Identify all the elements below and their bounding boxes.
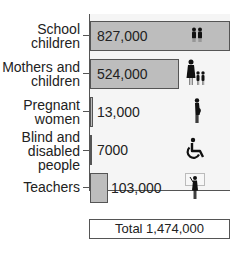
- category-label-school-children: School children: [31, 22, 80, 50]
- two-children-icon: [190, 27, 204, 43]
- label-line: children: [31, 36, 80, 50]
- bar-pregnant-women: [90, 97, 93, 127]
- tick-pregnant-women: [83, 111, 89, 112]
- label-line: disabled: [22, 144, 80, 158]
- label-line: Blind and: [22, 130, 80, 144]
- total-box: Total 1,474,000: [89, 219, 230, 239]
- tick-teachers: [83, 187, 89, 188]
- label-line: School: [31, 22, 80, 36]
- label-line: women: [23, 112, 80, 126]
- value-school-children: 827,000: [97, 29, 148, 43]
- value-mothers-and-children: 524,000: [97, 67, 148, 81]
- label-line: Pregnant: [23, 98, 80, 112]
- category-label-pregnant-women: Pregnant women: [23, 98, 80, 126]
- teacher-icon: [185, 173, 205, 201]
- category-label-mothers-and-children: Mothers and children: [2, 60, 80, 88]
- bar-blind-and-disabled-people: [90, 135, 92, 165]
- value-blind-and-disabled-people: 7000: [97, 143, 128, 157]
- label-line: Mothers and: [2, 60, 80, 74]
- pregnant-woman-icon: [192, 98, 202, 124]
- mother-and-children-icon: [186, 59, 206, 87]
- tick-blind-and-disabled-people: [83, 150, 89, 151]
- label-line: people: [22, 158, 80, 172]
- label-line: Teachers: [23, 180, 80, 194]
- value-teachers: 103,000: [111, 181, 162, 195]
- tick-mothers-and-children: [83, 73, 89, 74]
- wheelchair-icon: [184, 137, 208, 161]
- value-pregnant-women: 13,000: [97, 105, 140, 119]
- category-label-blind-and-disabled-people: Blind and disabled people: [22, 130, 80, 172]
- tick-school-children: [83, 35, 89, 36]
- category-label-teachers: Teachers: [23, 180, 80, 194]
- label-line: children: [2, 74, 80, 88]
- bar-teachers: [90, 173, 108, 203]
